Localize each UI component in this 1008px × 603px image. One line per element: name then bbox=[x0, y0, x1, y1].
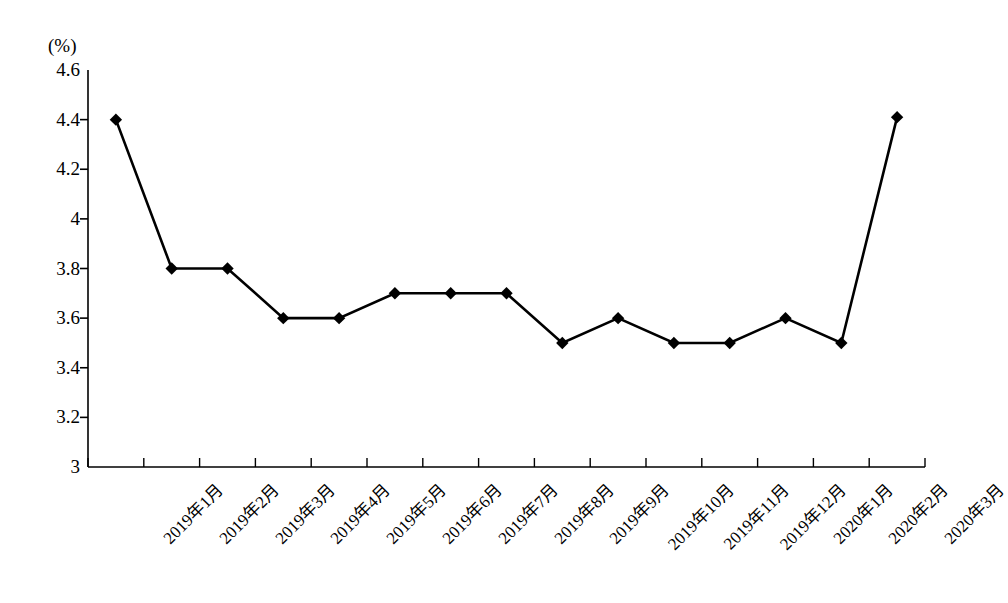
x-axis-tick-label: 2019年3月 bbox=[272, 481, 338, 547]
x-axis-tick-label: 2019年1月 bbox=[160, 481, 226, 547]
x-axis-tick-label: 2019年6月 bbox=[439, 481, 505, 547]
x-axis-tick-label: 2019年5月 bbox=[384, 481, 450, 547]
x-axis-tick-label: 2019年7月 bbox=[495, 481, 561, 547]
x-axis-tick-label: 2019年8月 bbox=[551, 481, 617, 547]
x-axis-tick-label: 2020年3月 bbox=[942, 481, 1008, 547]
x-axis-tick-label: 2019年2月 bbox=[216, 481, 282, 547]
x-axis-tick-label: 2019年9月 bbox=[607, 481, 673, 547]
x-axis-tick-label: 2020年2月 bbox=[886, 481, 952, 547]
x-axis-tick-label: 2019年4月 bbox=[328, 481, 394, 547]
